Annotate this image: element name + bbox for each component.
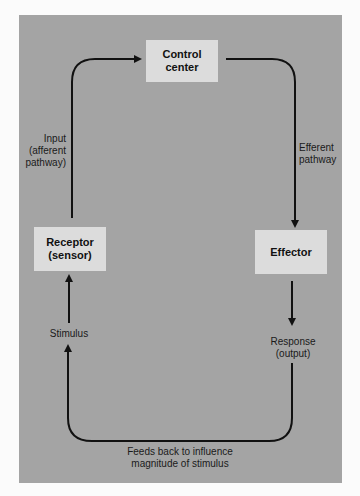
input-label: Input(afferentpathway) [18, 133, 66, 169]
receptor-line1: Receptor [46, 236, 94, 248]
receptor-line2: (sensor) [48, 249, 91, 261]
response-label: Response(output) [266, 336, 320, 360]
control-center-line2: center [165, 61, 198, 73]
control-center-line1: Control [162, 48, 201, 60]
efferent-label: Efferentpathway [299, 142, 336, 166]
stimulus-label: Stimulus [46, 328, 92, 340]
effector-box: Effector [255, 230, 327, 274]
control-center-box: Controlcenter [146, 40, 218, 82]
afferent-pathway-arrow [72, 59, 140, 218]
receptor-box: Receptor(sensor) [34, 227, 106, 271]
efferent-pathway-arrow [226, 59, 295, 226]
effector-label: Effector [270, 246, 312, 259]
feedback-label: Feeds back to influencemagnitude of stim… [100, 446, 260, 470]
feedback-arrow [68, 346, 292, 441]
